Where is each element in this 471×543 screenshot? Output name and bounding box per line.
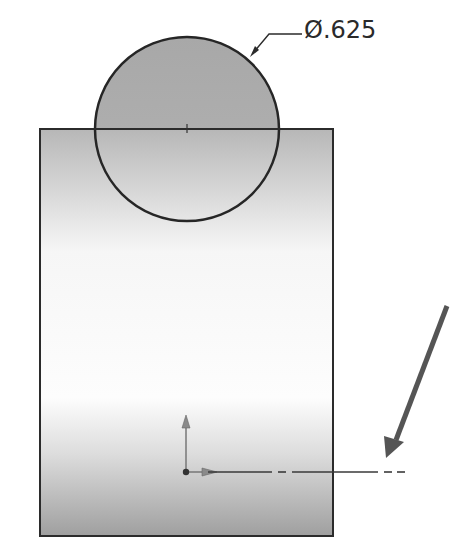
arrow-pointer-icon	[384, 306, 447, 458]
diameter-dimension-leader[interactable]	[250, 34, 302, 57]
diameter-dimension-label[interactable]: Ø.625	[304, 16, 376, 44]
sketch-canvas[interactable]	[0, 0, 471, 543]
